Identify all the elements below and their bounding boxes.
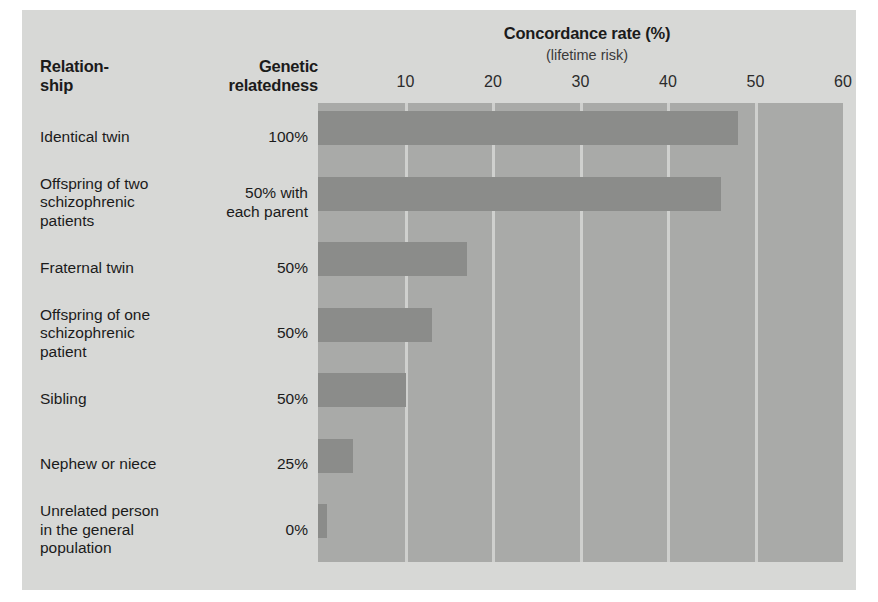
x-tick-label-50: 50 bbox=[733, 73, 779, 91]
row-label-line: Unrelated person bbox=[40, 502, 202, 521]
row-value-line: 25% bbox=[200, 455, 308, 474]
row-label-column: Identical twin100%Offspring of twoschizo… bbox=[22, 103, 318, 562]
table-row: Offspring of twoschizophrenicpatients50%… bbox=[22, 169, 318, 237]
table-row: Unrelated personin the generalpopulation… bbox=[22, 496, 318, 564]
row-value-line: 50% bbox=[200, 259, 308, 278]
bar-1 bbox=[318, 177, 721, 211]
row-label-line: schizophrenic bbox=[40, 324, 202, 343]
bar-4 bbox=[318, 373, 406, 407]
bar-0 bbox=[318, 111, 738, 145]
gridline-50 bbox=[755, 103, 758, 562]
x-tick-label-60: 60 bbox=[820, 73, 866, 91]
row-label-line: Fraternal twin bbox=[40, 259, 202, 278]
gridline-30 bbox=[580, 103, 583, 562]
row-value-line: 50% with bbox=[200, 184, 308, 203]
bar-2 bbox=[318, 242, 467, 276]
row-label-line: Offspring of one bbox=[40, 306, 202, 325]
row-value-line: 50% bbox=[200, 390, 308, 409]
gridline-20 bbox=[492, 103, 495, 562]
row-value-genetic-relatedness: 50% bbox=[200, 259, 308, 278]
row-label-relationship: Fraternal twin bbox=[40, 259, 202, 278]
row-label-line: Nephew or niece bbox=[40, 455, 202, 474]
row-label-line: population bbox=[40, 539, 202, 558]
x-axis-tick-labels: 102030405060 bbox=[22, 10, 856, 103]
row-value-genetic-relatedness: 50% bbox=[200, 324, 308, 343]
row-label-line: Sibling bbox=[40, 390, 202, 409]
table-row: Fraternal twin50% bbox=[22, 234, 318, 302]
row-value-line: 50% bbox=[200, 324, 308, 343]
row-label-relationship: Sibling bbox=[40, 390, 202, 409]
row-value-genetic-relatedness: 50% witheach parent bbox=[200, 184, 308, 221]
x-tick-label-40: 40 bbox=[645, 73, 691, 91]
row-value-genetic-relatedness: 0% bbox=[200, 521, 308, 540]
row-label-line: Identical twin bbox=[40, 128, 202, 147]
table-row: Offspring of oneschizophrenicpatient50% bbox=[22, 300, 318, 368]
table-row: Identical twin100% bbox=[22, 103, 318, 171]
row-value-line: each parent bbox=[200, 203, 308, 222]
table-row: Nephew or niece25% bbox=[22, 431, 318, 499]
row-label-relationship: Offspring of oneschizophrenicpatient bbox=[40, 306, 202, 362]
row-value-line: 100% bbox=[200, 128, 308, 147]
gridline-40 bbox=[667, 103, 670, 562]
x-tick-label-10: 10 bbox=[383, 73, 429, 91]
row-value-genetic-relatedness: 100% bbox=[200, 128, 308, 147]
row-label-line: patients bbox=[40, 212, 202, 231]
row-label-relationship: Unrelated personin the generalpopulation bbox=[40, 502, 202, 558]
row-label-line: in the general bbox=[40, 521, 202, 540]
bar-6 bbox=[318, 504, 327, 538]
row-label-line: schizophrenic bbox=[40, 193, 202, 212]
bar-3 bbox=[318, 308, 432, 342]
row-label-line: Offspring of two bbox=[40, 175, 202, 194]
row-value-line: 0% bbox=[200, 521, 308, 540]
row-label-relationship: Nephew or niece bbox=[40, 455, 202, 474]
plot-area bbox=[318, 103, 843, 562]
row-label-line: patient bbox=[40, 343, 202, 362]
row-label-relationship: Identical twin bbox=[40, 128, 202, 147]
x-tick-label-20: 20 bbox=[470, 73, 516, 91]
row-label-relationship: Offspring of twoschizophrenicpatients bbox=[40, 175, 202, 231]
chart-figure: Relation- ship Genetic relatedness Conco… bbox=[22, 10, 856, 590]
row-value-genetic-relatedness: 25% bbox=[200, 455, 308, 474]
row-value-genetic-relatedness: 50% bbox=[200, 390, 308, 409]
table-row: Sibling50% bbox=[22, 365, 318, 433]
bar-5 bbox=[318, 439, 353, 473]
chart-header: Relation- ship Genetic relatedness Conco… bbox=[22, 10, 856, 103]
x-tick-label-30: 30 bbox=[558, 73, 604, 91]
